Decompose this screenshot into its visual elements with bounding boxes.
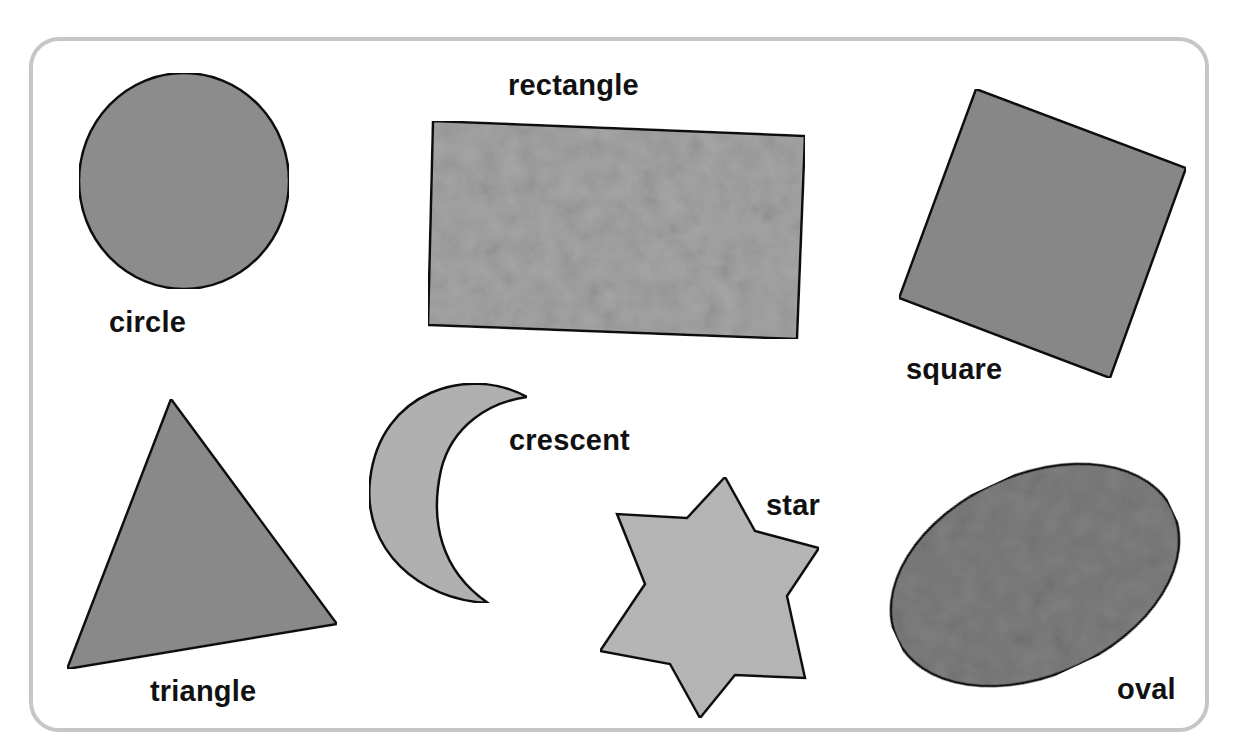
rectangle-shape — [428, 121, 805, 339]
circle-label: circle — [109, 308, 186, 337]
circle-shape — [79, 73, 289, 289]
triangle-label: triangle — [150, 677, 256, 706]
square-shape — [899, 89, 1186, 378]
oval-label: oval — [1117, 675, 1176, 704]
triangle-shape — [67, 399, 337, 669]
shapes-worksheet: circle rectangle square triangle crescen… — [0, 0, 1245, 755]
rectangle-label: rectangle — [508, 71, 639, 100]
star-label: star — [766, 491, 820, 520]
shapes-canvas — [0, 0, 1245, 755]
crescent-shape — [369, 384, 527, 603]
crescent-label: crescent — [509, 426, 630, 455]
square-label: square — [906, 355, 1002, 384]
